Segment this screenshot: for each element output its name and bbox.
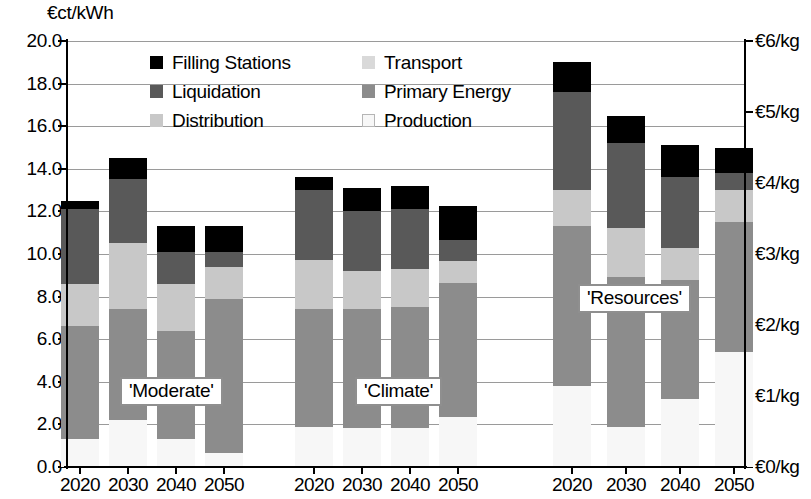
bar-segment: [553, 62, 591, 92]
bar-segment: [157, 252, 195, 284]
bar-segment: [391, 209, 429, 269]
legend-swatch-icon: [150, 114, 163, 127]
bar-segment: [391, 186, 429, 209]
y-tick-label-right: €2/kg: [755, 314, 799, 336]
y-tick-label-right: €5/kg: [755, 101, 799, 123]
stacked-bar: [391, 186, 429, 467]
bar-segment: [553, 190, 591, 226]
bar-segment: [553, 92, 591, 190]
bar-segment: [391, 428, 429, 467]
bar-segment: [607, 427, 645, 467]
bar-segment: [715, 148, 753, 174]
x-tick: [679, 466, 681, 474]
y-axis-line-right: [744, 39, 746, 469]
legend-label: Liquidation: [172, 81, 261, 103]
y-tick-label-right: €3/kg: [755, 243, 799, 265]
bar-segment: [295, 427, 333, 467]
legend-item-filling-stations: Filling Stations: [150, 48, 291, 77]
bar-segment: [157, 284, 195, 331]
group-annotation-climate: 'Climate': [355, 377, 442, 406]
y-tick-label-right: €1/kg: [755, 385, 799, 407]
legend-item-distribution: Distribution: [150, 106, 263, 135]
chart-root: €ct/kWh 0.02.04.06.08.010.012.014.016.01…: [0, 0, 811, 499]
bar-segment: [661, 145, 699, 177]
bar-segment: [553, 386, 591, 467]
x-tick: [79, 466, 81, 474]
bar-segment: [715, 190, 753, 222]
bar-segment: [391, 269, 429, 307]
gridline: [66, 41, 745, 42]
y-tick-label: 10.0: [27, 243, 62, 265]
stacked-bar: [109, 158, 147, 467]
legend-label: Transport: [384, 52, 462, 74]
x-tick-label: 2040: [156, 474, 196, 496]
y-tick-label: 16.0: [27, 115, 62, 137]
legend-row-3: Distribution Production: [150, 106, 540, 135]
legend-label: Filling Stations: [172, 52, 291, 74]
y-tick-label: 14.0: [27, 158, 62, 180]
stacked-bar: [343, 188, 381, 467]
x-tick-label: 2030: [606, 474, 646, 496]
bar-segment: [157, 226, 195, 252]
x-tick-label: 2030: [342, 474, 382, 496]
legend-row-2: Liquidation Primary Energy: [150, 77, 540, 106]
bar-segment: [109, 420, 147, 467]
y-tick-right: [745, 40, 753, 42]
x-tick-label: 2020: [60, 474, 100, 496]
bar-segment: [109, 243, 147, 309]
legend-label: Production: [384, 110, 472, 132]
legend-label: Distribution: [172, 110, 263, 132]
bar-segment: [205, 252, 243, 267]
y-tick-label-right: €0/kg: [755, 456, 799, 478]
bar-segment: [109, 158, 147, 179]
bar-segment: [391, 307, 429, 427]
legend-item-production: Production: [362, 106, 472, 135]
y-tick: [58, 40, 66, 42]
x-tick-label: 2050: [204, 474, 244, 496]
legend-item-primary-energy: Primary Energy: [362, 77, 511, 106]
bar-segment: [715, 222, 753, 352]
bar-segment: [343, 271, 381, 309]
stacked-bar: [295, 177, 333, 467]
x-tick-label: 2050: [438, 474, 478, 496]
y-tick: [58, 83, 66, 85]
bar-segment: [343, 309, 381, 427]
bar-segment: [661, 177, 699, 247]
x-tick-label: 2040: [390, 474, 430, 496]
y-tick: [58, 168, 66, 170]
y-tick-right: [745, 111, 753, 113]
bar-segment: [439, 261, 477, 282]
x-tick: [625, 466, 627, 474]
bar-segment: [439, 283, 477, 417]
x-tick-label: 2020: [294, 474, 334, 496]
bar-segment: [439, 417, 477, 467]
y-tick-label: 18.0: [27, 73, 62, 95]
bar-segment: [295, 190, 333, 260]
y-tick-label-right: €6/kg: [755, 30, 799, 52]
bar-segment: [295, 260, 333, 309]
x-tick: [127, 466, 129, 474]
legend-item-transport: Transport: [362, 48, 462, 77]
bar-segment: [205, 226, 243, 252]
bar-segment: [295, 177, 333, 190]
x-tick: [571, 466, 573, 474]
y-axis-title: €ct/kWh: [47, 2, 114, 24]
legend-swatch-icon: [150, 85, 163, 98]
stacked-bar: [553, 62, 591, 467]
bar-segment: [343, 211, 381, 271]
legend-swatch-icon: [362, 85, 375, 98]
y-axis-labels-left: 0.02.04.06.08.010.012.014.016.018.020.0: [0, 41, 62, 467]
x-tick: [457, 466, 459, 474]
bar-segment: [607, 143, 645, 228]
x-tick: [361, 466, 363, 474]
legend-swatch-icon: [150, 56, 163, 69]
stacked-bar: [205, 226, 243, 467]
x-axis-line: [64, 466, 747, 468]
bar-segment: [607, 116, 645, 144]
legend-row-1: Filling Stations Transport: [150, 48, 540, 77]
legend-item-liquidation: Liquidation: [150, 77, 261, 106]
bar-segment: [295, 309, 333, 426]
bar-segment: [205, 453, 243, 467]
bar-segment: [439, 206, 477, 240]
bar-segment: [715, 173, 753, 190]
